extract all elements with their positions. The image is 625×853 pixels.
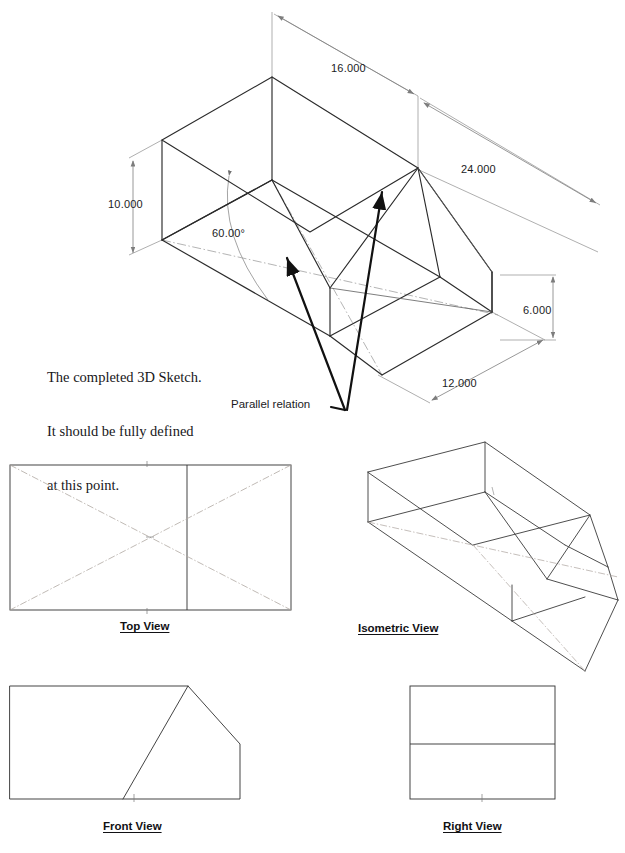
isometric-view-drawing [340,437,625,687]
top-view-construction-lines [10,465,291,610]
top-view-drawing [0,455,300,620]
dimension-10: 10.000 [108,198,143,210]
right-view-label: Right View [443,820,502,832]
dimension-6: 6.000 [523,304,552,316]
dimension-12: 12.000 [442,377,477,389]
drawing-page: 16.000 24.000 10.000 60.00° 6.000 12.000… [0,0,625,853]
parallel-relation-label: Parallel relation [231,398,310,410]
sketch-note-line-1: The completed 3D Sketch. [47,368,202,386]
top-view-label: Top View [120,620,169,632]
parallel-relation-leaders [287,192,382,410]
dimension-angle-60: 60.00° [212,227,245,239]
wireframe-edges [162,77,492,375]
right-view-drawing [395,678,595,813]
dimension-16: 16.000 [331,62,366,74]
isometric-view-construction-lines [368,522,618,671]
front-view-drawing [0,678,300,813]
isometric-view-label: Isometric View [358,622,438,634]
front-view-label: Front View [103,820,162,832]
sketch-note-line-2: It should be fully defined [47,422,202,440]
dimension-24: 24.000 [461,163,496,175]
wireframe-thin-edges [330,168,492,312]
